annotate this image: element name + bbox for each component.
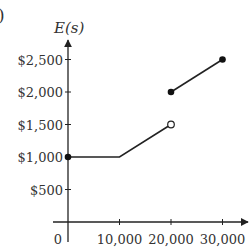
closed-point — [168, 89, 175, 96]
x-tick-label: 10,000 — [97, 232, 143, 247]
y-tick-label: $2,500 — [18, 53, 64, 68]
y-axis-label: E(s) — [53, 19, 84, 37]
y-tick-label: $2,000 — [18, 85, 64, 100]
piecewise-chart: ) E(s) $500$1,000$1,500$2,000$2,500 010,… — [0, 0, 252, 250]
data-series — [65, 56, 226, 160]
y-ticks: $500$1,000$1,500$2,000$2,500 — [18, 53, 72, 198]
x-ticks: 010,00020,00030,000 — [54, 219, 245, 247]
closed-point — [219, 56, 226, 63]
x-tick-label: 0 — [54, 232, 62, 247]
y-tick-label: $1,000 — [18, 150, 64, 165]
figure-label: ) — [0, 5, 5, 25]
y-tick-label: $1,500 — [18, 118, 64, 133]
series-line — [171, 60, 223, 93]
x-tick-label: 20,000 — [148, 232, 194, 247]
x-tick-label: 30,000 — [200, 232, 246, 247]
series-line — [68, 125, 171, 158]
y-tick-label: $500 — [30, 183, 63, 198]
open-point — [168, 121, 175, 128]
closed-point — [65, 154, 72, 161]
